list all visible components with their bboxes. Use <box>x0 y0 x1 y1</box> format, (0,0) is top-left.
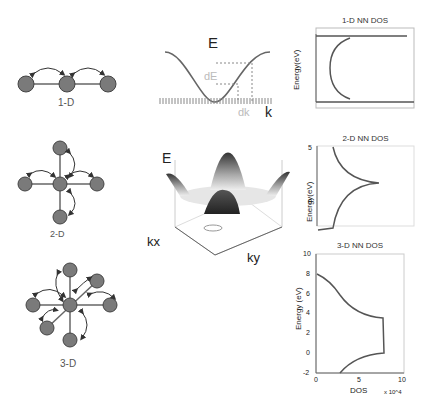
xtick: 10 <box>398 376 406 383</box>
xtick: 0 <box>314 376 318 383</box>
dos-3d-multiplier: x 10^4 <box>384 389 402 395</box>
dos-1d-title: 1-D NN DOS <box>316 16 414 25</box>
surface-plot <box>166 153 290 256</box>
surface-ky-label: ky <box>247 250 260 265</box>
dos-2d-chart <box>317 146 414 230</box>
dos-2d-ytick-5: 5 <box>308 144 312 151</box>
ytick: 8 <box>306 270 310 277</box>
dos-2d-title: 2-D NN DOS <box>317 134 414 143</box>
ytick: 2 <box>306 329 310 336</box>
dos-2d-ytick-0: 0 <box>308 198 312 205</box>
lattice-3d-label: 3-D <box>60 358 76 369</box>
ytick: -2 <box>303 369 309 376</box>
lattice-2d <box>18 141 104 224</box>
dos-3d-xlabel: DOS <box>350 386 367 395</box>
lattice-3d <box>26 263 117 347</box>
ytick: 6 <box>306 290 310 297</box>
lattice-1d-label: 1-D <box>58 97 74 108</box>
dispersion-k-label: k <box>265 104 272 120</box>
dos-1d-ylabel: Energy(eV) <box>292 50 301 90</box>
xtick: 5 <box>357 376 361 383</box>
surface-e-label: E <box>162 150 171 166</box>
lattice-2d-label: 2-D <box>50 229 65 239</box>
ytick: 0 <box>306 349 310 356</box>
surface-kx-label: kx <box>147 234 160 249</box>
lattice-diagrams <box>0 0 435 413</box>
dos-3d-title: 3-D NN DOS <box>316 241 404 250</box>
ytick: 4 <box>306 309 310 316</box>
dos-1d-chart <box>316 28 414 108</box>
dos-3d-ylabel: Energy (eV) <box>294 287 303 330</box>
dispersion-e-label: E <box>208 34 218 51</box>
dk-label: dk <box>238 106 250 118</box>
dos-3d-chart <box>316 254 404 373</box>
de-label: dE <box>204 70 217 82</box>
lattice-1d <box>18 68 116 92</box>
ytick: 10 <box>303 250 311 257</box>
